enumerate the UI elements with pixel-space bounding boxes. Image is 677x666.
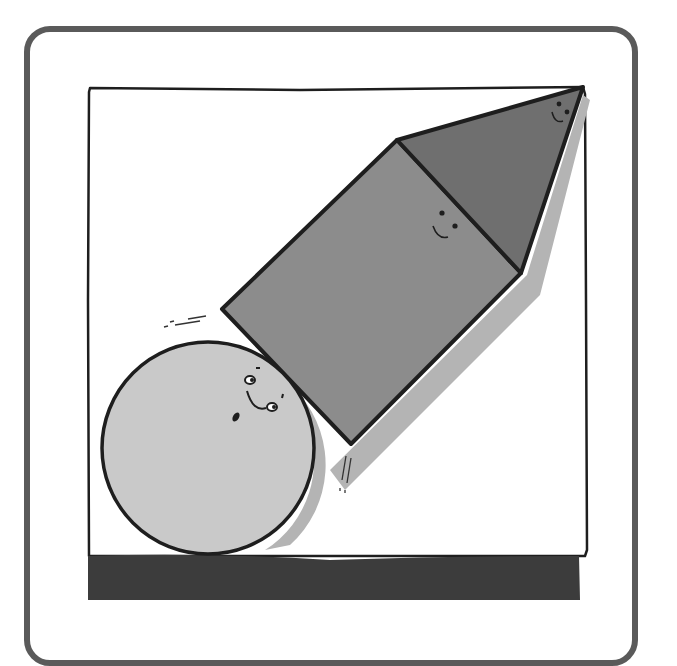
ground-bar [88,555,580,600]
circle-shape [102,342,314,554]
